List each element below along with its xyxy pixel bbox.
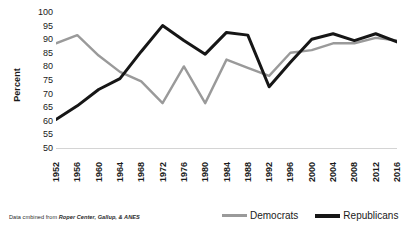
legend-item-republicans: Republicans <box>315 210 398 221</box>
y-tick-label: 55 <box>27 130 53 139</box>
legend-label-democrats: Democrats <box>250 210 298 221</box>
line-chart: Percent 10095908580757065605550 19521956… <box>0 0 413 241</box>
y-tick-label: 65 <box>27 103 53 112</box>
y-axis-title-label: Percent <box>12 68 22 102</box>
chart-footnote: Data cmbined from Roper Center, Gallup, … <box>9 214 140 220</box>
legend-swatch-democrats-icon <box>222 214 247 217</box>
y-tick-label: 85 <box>27 48 53 57</box>
plot-svg <box>56 12 397 148</box>
y-axis-title: Percent <box>9 40 25 130</box>
y-tick-label: 60 <box>27 116 53 125</box>
y-tick-label: 75 <box>27 76 53 85</box>
y-tick-label: 70 <box>27 89 53 98</box>
x-tick-label: 2016 <box>375 150 413 194</box>
plot-area <box>56 12 397 148</box>
y-tick-label: 95 <box>27 21 53 30</box>
legend-label-republicans: Republicans <box>343 210 398 221</box>
x-axis-baseline <box>56 148 397 149</box>
series-line-democrats <box>56 35 397 103</box>
chart-legend: Democrats Republicans <box>222 210 398 221</box>
footnote-source: Roper Center, Gallup, & ANES <box>59 214 140 220</box>
legend-swatch-republicans-icon <box>315 214 340 218</box>
x-axis-tick-labels: 1952195619601964196819721976198019841988… <box>56 150 397 194</box>
y-tick-label: 100 <box>27 8 53 17</box>
y-axis-tick-labels: 10095908580757065605550 <box>27 8 53 148</box>
footnote-prefix: Data cmbined from <box>9 214 57 220</box>
legend-item-democrats: Democrats <box>222 210 298 221</box>
y-tick-label: 90 <box>27 35 53 44</box>
series-line-republicans <box>56 26 397 120</box>
y-tick-label: 80 <box>27 62 53 71</box>
